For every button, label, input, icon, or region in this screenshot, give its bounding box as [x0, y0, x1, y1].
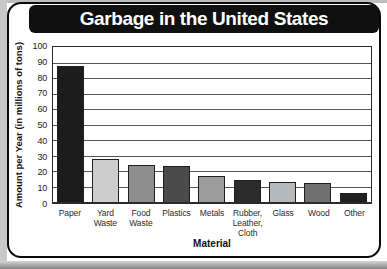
- x-tick-label: Paper: [52, 208, 88, 239]
- y-tick-label: 80: [37, 73, 47, 83]
- page: Garbage in the United States Amount per …: [0, 0, 387, 269]
- y-tick-label: 20: [37, 167, 47, 177]
- x-tick-label: Rubber, Leather, Cloth: [230, 208, 266, 239]
- bar-plastics: [163, 166, 190, 202]
- x-tick-label: Other: [337, 208, 373, 239]
- y-axis-ticks: 1009080706050403020100: [0, 46, 47, 204]
- bar-paper: [57, 66, 84, 202]
- bar-metals: [198, 176, 225, 202]
- y-tick-label: 40: [37, 136, 47, 146]
- x-axis-labels: PaperYard WasteFood WastePlasticsMetalsR…: [52, 208, 372, 239]
- scan-edge-bottom: [0, 261, 387, 269]
- bars-container: [53, 47, 371, 202]
- x-tick-label: Metals: [194, 208, 230, 239]
- title-banner: Garbage in the United States: [29, 5, 379, 33]
- chart-title: Garbage in the United States: [80, 8, 329, 30]
- y-tick-label: 50: [37, 120, 47, 130]
- y-tick-label: 0: [42, 199, 47, 209]
- bar-wood: [304, 183, 331, 202]
- x-tick-label: Glass: [265, 208, 301, 239]
- y-tick-label: 70: [37, 88, 47, 98]
- y-tick-label: 100: [33, 41, 47, 51]
- y-tick-label: 90: [37, 57, 47, 67]
- y-tick-label: 10: [37, 183, 47, 193]
- bar-yard-waste: [92, 159, 119, 202]
- bar-other: [340, 193, 367, 202]
- plot-area: [52, 46, 372, 204]
- x-tick-label: Wood: [301, 208, 337, 239]
- bar-glass: [269, 182, 296, 202]
- bar-rubber-leather-cloth: [234, 180, 261, 202]
- bar-food-waste: [128, 165, 155, 202]
- y-tick-label: 30: [37, 152, 47, 162]
- y-tick-label: 60: [37, 104, 47, 114]
- x-tick-label: Yard Waste: [88, 208, 124, 239]
- x-axis-title: Material: [52, 238, 372, 249]
- x-tick-label: Food Waste: [123, 208, 159, 239]
- x-tick-label: Plastics: [159, 208, 195, 239]
